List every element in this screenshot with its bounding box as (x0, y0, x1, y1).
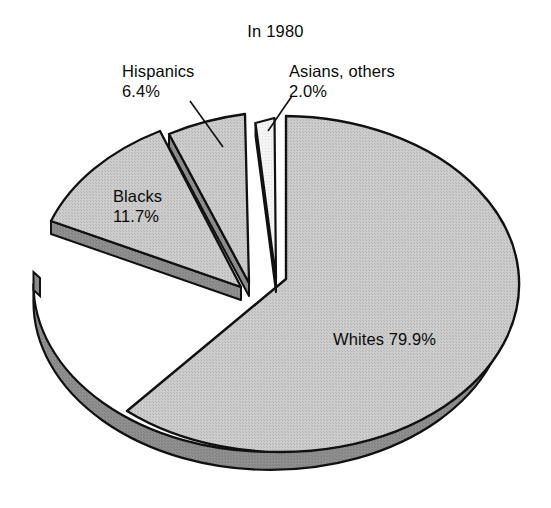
slice-label-hispanics: Hispanics 6.4% (122, 61, 194, 101)
slice-asians-top (256, 118, 277, 279)
slice-label-hispanics-name: Hispanics (122, 61, 194, 81)
slice-label-asians-others: Asians, others 2.0% (289, 61, 395, 101)
slice-label-whites: Whites 79.9% (333, 329, 436, 349)
slice-label-whites-text: Whites 79.9% (333, 329, 436, 349)
slice-label-blacks-value: 11.7% (113, 206, 162, 226)
pie-chart-figure: In 1980 (0, 0, 551, 508)
slice-label-hispanics-value: 6.4% (122, 81, 194, 101)
slice-label-asians-others-name: Asians, others (289, 61, 395, 81)
pie-chart-graphic (0, 0, 551, 508)
slice-asians-others (256, 118, 277, 292)
slice-label-blacks-name: Blacks (113, 186, 162, 206)
slice-label-blacks: Blacks 11.7% (113, 186, 162, 226)
slice-label-asians-others-value: 2.0% (289, 81, 395, 101)
